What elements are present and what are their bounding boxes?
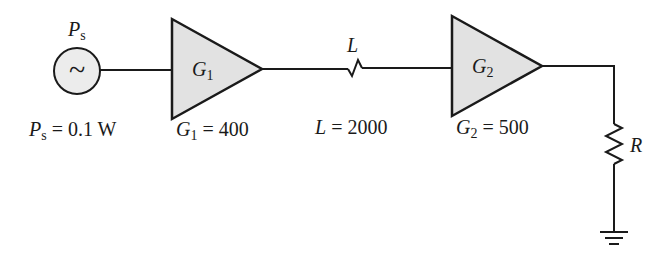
sine-glyph: ~ [69,53,85,86]
ac-source: ~ [54,48,100,94]
load-label: R [629,134,642,156]
signal-chain-diagram: ~ Ps Ps = 0.1 W G1 G1 = 400 L L = 2000 G… [0,0,671,253]
amplifier-g1-icon [172,19,262,119]
wire-g2-to-load [542,66,614,124]
loss-label: L [346,34,358,56]
loss-value: L = 2000 [314,116,387,138]
source-symbol-label: Ps [67,18,86,43]
load-resistor-icon [606,124,622,164]
amplifier-g1-value: G1 = 400 [176,118,249,143]
loss-resistor-icon [348,60,362,76]
amplifier-g2-icon [452,16,542,116]
source-value-label: Ps = 0.1 W [28,118,117,143]
amplifier-g2-value: G2 = 500 [456,116,529,141]
ground-icon [600,232,628,244]
